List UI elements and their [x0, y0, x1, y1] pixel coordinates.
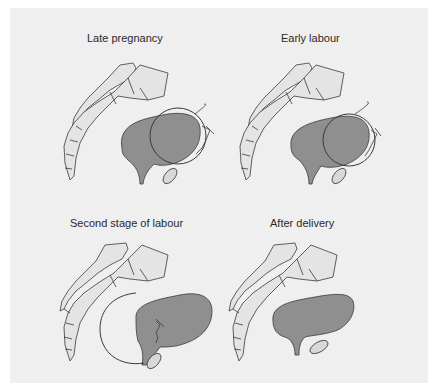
panel-late-pregnancy: Late pregnancy — [10, 8, 219, 195]
uterus-icon — [121, 113, 200, 184]
figure-panel: Late pregnancy Early labour — [10, 8, 428, 383]
panel-early-labour: Early labour — [219, 8, 428, 195]
uterus-icon — [136, 294, 212, 365]
bladder-icon — [308, 338, 330, 357]
second-stage-illustration — [10, 195, 219, 382]
panel-after-delivery: After delivery — [219, 195, 428, 382]
after-delivery-illustration — [219, 195, 428, 382]
uterus-icon — [291, 116, 369, 184]
panel-second-stage-of-labour: Second stage of labour — [10, 195, 219, 382]
bladder-icon — [160, 166, 179, 186]
early-labour-illustration — [219, 8, 428, 195]
late-pregnancy-illustration — [10, 8, 219, 195]
bladder-icon — [329, 166, 348, 186]
